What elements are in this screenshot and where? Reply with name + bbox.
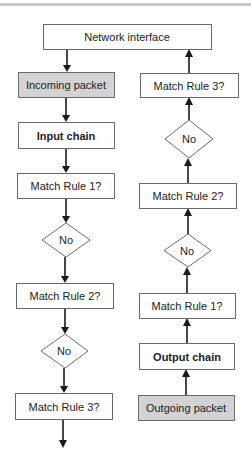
node-network-interface: Network interface [44,25,212,50]
node-input-chain: Input chain [19,123,115,149]
node-label: Match Rule 1? [152,300,223,312]
node-label: Network interface [84,31,170,43]
arrowhead [183,318,191,326]
arrowhead [184,158,192,166]
node-outgoing-packet: Outgoing packet [139,396,235,421]
node-label: Match Rule 2? [30,290,101,302]
arrowhead [185,97,193,105]
arrowhead [185,49,193,57]
node-label: Match Rule 3? [154,80,225,92]
node-label: Outgoing packet [146,402,226,414]
arrowhead [62,166,70,173]
node-label: No [182,133,196,145]
arrowhead [183,267,191,275]
node-label: Output chain [153,351,221,363]
arrowhead [62,216,70,223]
node-label: Match Rule 3? [29,401,100,413]
node-input-no-1: No [42,223,90,257]
node-output-chain: Output chain [140,344,235,370]
arrowhead [63,65,71,72]
node-label: Match Rule 2? [153,190,224,202]
node-output-rule-3: Match Rule 3? [141,74,239,98]
node-label: No [59,234,73,246]
node-label: Incoming packet [26,79,106,91]
node-output-no-2: No [165,120,213,158]
node-input-rule-3: Match Rule 3? [16,394,113,420]
flowchart: Network interface Incoming packet Input … [0,0,251,464]
arrowhead [60,386,68,393]
arrowhead [61,276,69,283]
arrowhead [62,115,70,122]
node-input-rule-1: Match Rule 1? [18,174,115,199]
node-output-rule-1: Match Rule 1? [140,294,236,319]
node-output-no-1: No [164,234,211,267]
node-input-rule-2: Match Rule 2? [17,284,114,309]
arrowhead [59,440,67,448]
node-label: Input chain [37,130,96,142]
node-label: No [57,345,71,357]
node-incoming-packet: Incoming packet [19,73,115,98]
node-label: Match Rule 1? [31,180,102,192]
arrowhead [182,369,190,377]
node-input-no-2: No [41,334,88,368]
arrowhead [61,327,69,334]
node-label: No [180,245,194,257]
node-output-rule-2: Match Rule 2? [140,184,237,209]
arrowhead [184,208,192,216]
